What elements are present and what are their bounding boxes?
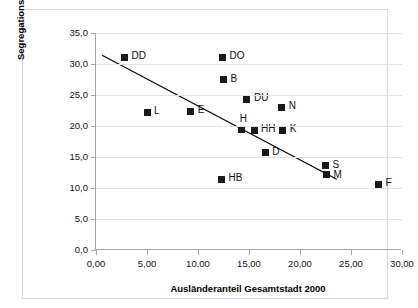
y-axis-tick-label: 35,0 [28,28,88,38]
data-point-hb [218,176,225,183]
y-axis-tick-label: 20,0 [28,121,88,131]
data-point-m [323,171,330,178]
y-axis-tick-label: 25,0 [28,90,88,100]
data-point-n [278,104,285,111]
data-point-hh [251,127,258,134]
x-axis-tick [96,250,97,255]
y-axis-tick [91,64,96,65]
x-axis-tick [402,250,403,255]
x-axis-title: Ausländeranteil Gesamtstadt 2000 [95,283,401,294]
y-axis-tick [91,95,96,96]
y-axis-tick-label: 5,0 [28,214,88,224]
data-point-k [279,127,286,134]
y-axis-tick [91,33,96,34]
gridline [96,33,402,34]
data-point-dd [121,54,128,61]
data-point-d [262,149,269,156]
data-point-h [238,126,245,133]
data-point-b [220,76,227,83]
plot-area: DDLEHBDOBHDUHHDNKSMF 0,05,010,015,020,02… [95,33,401,250]
gridline [96,157,402,158]
gridline [96,188,402,189]
data-point-label-hb: HB [228,173,242,183]
x-axis-tick [198,250,199,255]
gridline [96,64,402,65]
x-axis-tick [300,250,301,255]
y-axis-tick-label: 10,0 [28,183,88,193]
data-point-label-m: M [334,170,342,180]
x-axis-tick [249,250,250,255]
gridline [96,219,402,220]
y-axis-tick-label: 30,0 [28,59,88,69]
data-point-label-n: N [289,101,296,111]
data-point-label-l: L [154,106,160,116]
data-point-label-d: D [272,147,279,157]
data-point-e [187,108,194,115]
trendline [96,33,402,250]
y-axis-tick [91,188,96,189]
y-axis-tick [91,126,96,127]
data-point-label-e: E [198,105,205,115]
y-axis-title: Segregationsindex 2000 [15,0,26,60]
y-axis-tick-label: 0,0 [28,245,88,255]
gridline [96,126,402,127]
chart-frame: Segregationsindex 2000 DDLEHBDOBHDUHHDNK… [22,9,388,299]
x-axis-tick [147,250,148,255]
data-point-label-dd: DD [132,51,146,61]
data-point-s [322,162,329,169]
gridline [96,95,402,96]
y-axis-tick [91,219,96,220]
x-axis-tick [351,250,352,255]
y-axis-tick [91,157,96,158]
data-point-f [375,181,382,188]
x-axis-tick-label: 30,00 [372,259,418,269]
data-point-l [144,109,151,116]
data-point-label-f: F [386,178,392,188]
data-point-label-do: DO [229,51,244,61]
data-point-label-b: B [231,74,238,84]
data-point-label-h: H [240,114,247,124]
data-point-do [219,54,226,61]
data-point-du [243,96,250,103]
y-axis-tick-label: 15,0 [28,152,88,162]
